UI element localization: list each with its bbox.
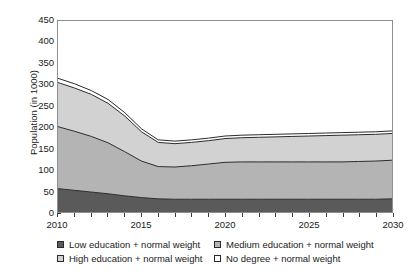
x-tick-mark	[343, 213, 344, 217]
y-axis-ticks: 050100150200250300350400450	[8, 20, 54, 213]
y-tick-label: 100	[14, 165, 54, 175]
x-tick-mark	[242, 213, 243, 217]
y-tick-label: 300	[14, 79, 54, 89]
legend-swatch	[214, 241, 221, 248]
x-tick-mark	[74, 213, 75, 217]
x-tick-mark	[175, 213, 176, 217]
x-tick-mark	[376, 213, 377, 217]
legend-item[interactable]: High education + normal weight	[57, 253, 202, 264]
y-tick-label: 50	[14, 187, 54, 197]
chart-legend: Low education + normal weightMedium educ…	[57, 239, 402, 269]
legend-label: High education + normal weight	[69, 253, 202, 264]
y-tick-label: 350	[14, 58, 54, 68]
chart-figure: Population (in 1000) 0501001502002503003…	[0, 0, 415, 280]
x-tick-label: 2030	[373, 219, 413, 230]
x-tick-mark	[191, 213, 192, 217]
x-tick-mark	[208, 213, 209, 217]
x-axis-ticks: 20102015202020252030	[57, 213, 393, 235]
legend-label: Medium education + normal weight	[226, 239, 374, 250]
x-tick-label: 2025	[289, 219, 329, 230]
y-tick-label: 400	[14, 36, 54, 46]
x-tick-mark	[141, 213, 142, 217]
x-tick-mark	[393, 213, 394, 217]
y-tick-label: 200	[14, 122, 54, 132]
x-tick-mark	[259, 213, 260, 217]
x-tick-mark	[124, 213, 125, 217]
stacked-area-svg	[58, 21, 392, 212]
legend-swatch	[214, 255, 221, 262]
x-tick-mark	[57, 213, 58, 217]
legend-swatch	[57, 241, 64, 248]
x-tick-mark	[292, 213, 293, 217]
x-tick-label: 2010	[37, 219, 77, 230]
x-tick-mark	[275, 213, 276, 217]
y-tick-label: 150	[14, 144, 54, 154]
legend-label: Low education + normal weight	[69, 239, 200, 250]
legend-item[interactable]: Medium education + normal weight	[214, 239, 374, 250]
x-tick-mark	[91, 213, 92, 217]
x-tick-mark	[359, 213, 360, 217]
x-tick-mark	[158, 213, 159, 217]
legend-label: No degree + normal weight	[226, 253, 340, 264]
x-tick-label: 2015	[121, 219, 161, 230]
x-tick-mark	[107, 213, 108, 217]
x-tick-label: 2020	[205, 219, 245, 230]
plot-area	[57, 20, 393, 213]
legend-item[interactable]: Low education + normal weight	[57, 239, 200, 250]
y-tick-label: 250	[14, 101, 54, 111]
legend-item[interactable]: No degree + normal weight	[214, 253, 340, 264]
y-tick-label: 0	[14, 208, 54, 218]
x-tick-mark	[326, 213, 327, 217]
legend-swatch	[57, 255, 64, 262]
y-tick-label: 450	[14, 15, 54, 25]
x-tick-mark	[225, 213, 226, 217]
x-tick-mark	[309, 213, 310, 217]
